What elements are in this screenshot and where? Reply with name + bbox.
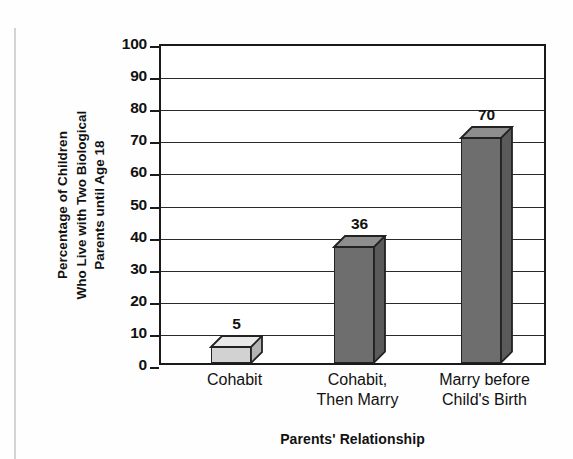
y-axis-tick [150, 110, 159, 112]
y-axis-tick-label: 30 [103, 260, 147, 278]
y-axis-tick [150, 174, 159, 176]
y-axis-tick [150, 46, 159, 48]
y-axis-tick-label: 60 [103, 163, 147, 181]
y-axis-title-line-2: Who Live with Two Biological [74, 110, 89, 299]
x-axis-category-label-line: Marry before [415, 370, 555, 390]
x-axis-category-label: Marry beforeChild's Birth [415, 370, 555, 410]
bar-value-label: 5 [193, 315, 280, 333]
bar [334, 247, 374, 363]
y-axis-tick-label: 50 [103, 196, 147, 214]
x-axis-category-label-line: Then Marry [288, 390, 428, 410]
y-axis-tick-label: 10 [103, 324, 147, 342]
bar-top-face [334, 247, 374, 363]
y-axis-tick-label: 70 [103, 131, 147, 149]
y-axis-tick [150, 207, 159, 209]
y-axis-tick [150, 271, 159, 273]
y-axis-tick [150, 367, 159, 369]
y-axis-tick [150, 239, 159, 241]
bar-value-label: 70 [443, 106, 530, 124]
x-axis-title: Parents' Relationship [159, 431, 546, 447]
y-axis-tick-labels: 0102030405060708090100 [103, 44, 147, 365]
y-axis-tick-label: 0 [103, 356, 147, 374]
y-axis-tick [150, 142, 159, 144]
bar [461, 138, 501, 363]
y-axis-tick-label: 80 [103, 99, 147, 117]
x-axis-category-label: Cohabit [165, 370, 305, 390]
bar-top-face [461, 138, 501, 363]
bar-top-face [211, 347, 251, 363]
y-axis-tick-label: 90 [103, 67, 147, 85]
y-axis-tick-label: 20 [103, 292, 147, 310]
y-axis-tick [150, 78, 159, 80]
bar [211, 347, 251, 363]
x-axis-category-label-line: Cohabit, [288, 370, 428, 390]
page-edge-artifact [14, 28, 16, 459]
chart-page: Percentage of Children Who Live with Two… [0, 0, 573, 459]
plot-area: 53670 [159, 44, 546, 365]
y-axis-tick [150, 335, 159, 337]
y-axis-tick-label: 40 [103, 228, 147, 246]
y-axis-tick [150, 303, 159, 305]
x-axis-category-label-line: Child's Birth [415, 390, 555, 410]
y-axis-tick-label: 100 [103, 35, 147, 53]
x-axis-category-labels: CohabitCohabit,Then MarryMarry beforeChi… [159, 370, 546, 422]
bar-value-label: 36 [316, 215, 403, 233]
x-axis-category-label-line: Cohabit [165, 370, 305, 390]
x-axis-category-label: Cohabit,Then Marry [288, 370, 428, 410]
y-axis-title-line-1: Percentage of Children [55, 131, 70, 279]
gridline [161, 78, 544, 79]
